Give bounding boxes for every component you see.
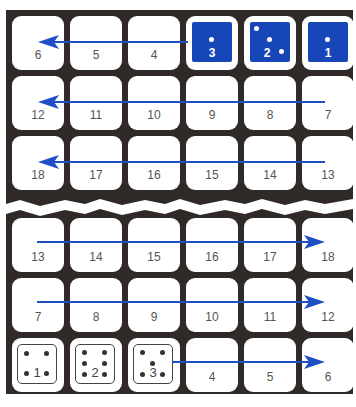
wavy-break-line (6, 199, 353, 216)
arrows-overlay (0, 0, 356, 407)
